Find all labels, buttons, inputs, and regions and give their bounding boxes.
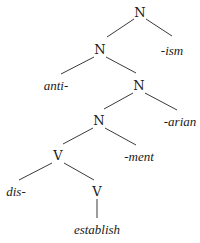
node-ment: -ment <box>124 150 154 163</box>
node-anti: anti- <box>44 79 69 92</box>
branch-n2-n3 <box>106 57 136 73</box>
node-n4: N <box>93 114 104 127</box>
branch-n1-ism <box>146 19 172 36</box>
branch-v1-dis <box>19 163 52 180</box>
node-n3: N <box>133 79 144 92</box>
node-n1: N <box>134 6 145 19</box>
branch-n4-v1 <box>63 128 93 144</box>
node-establish: establish <box>74 223 120 236</box>
branch-n2-anti <box>61 57 94 74</box>
branch-n3-n4 <box>104 93 133 109</box>
node-arian: -arian <box>164 115 197 128</box>
node-n2: N <box>94 43 105 56</box>
node-v1: V <box>53 149 62 162</box>
node-v2: V <box>92 185 101 198</box>
node-dis: dis- <box>6 185 26 198</box>
branch-n3-arian <box>145 93 177 110</box>
morphology-tree: N N -ism anti- N N -arian V -ment dis- V… <box>0 0 200 243</box>
node-ism: -ism <box>161 44 183 57</box>
branch-n1-n2 <box>107 19 134 37</box>
branch-v1-v2 <box>64 163 94 180</box>
branch-n4-ment <box>105 128 136 145</box>
